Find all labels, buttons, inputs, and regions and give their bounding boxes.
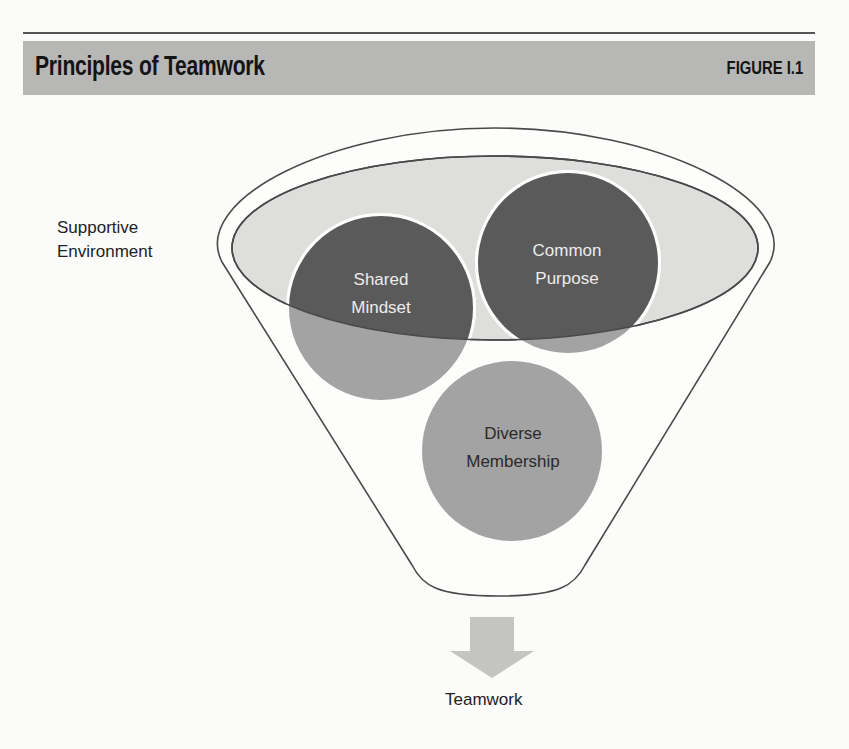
shared-mindset-label: Shared Mindset: [301, 266, 461, 322]
teamwork-funnel-diagram: [0, 0, 849, 749]
teamwork-label: Teamwork: [445, 690, 522, 710]
supportive-environment-label: Supportive Environment: [57, 216, 152, 264]
down-arrow-icon: [450, 617, 534, 678]
diverse-membership-label: Diverse Membership: [433, 420, 593, 476]
common-purpose-label: Common Purpose: [487, 237, 647, 293]
